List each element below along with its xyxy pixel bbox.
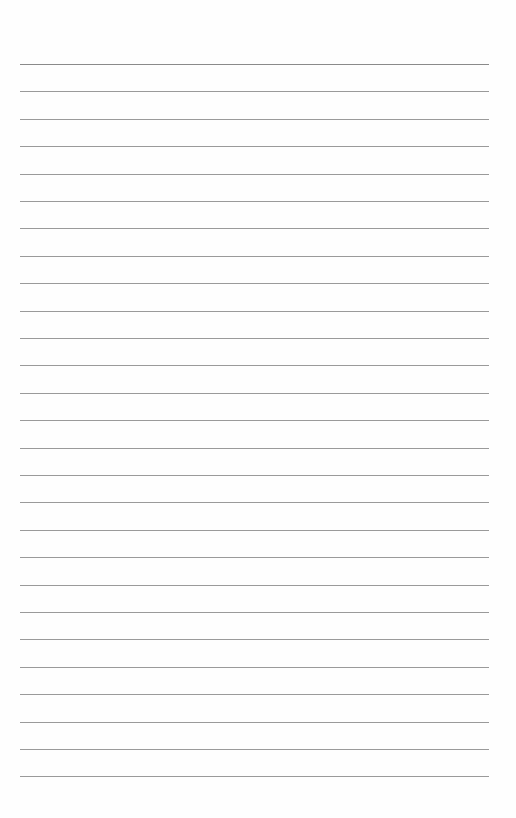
ruled-line <box>20 667 489 668</box>
ruled-line <box>20 201 489 202</box>
ruled-line <box>20 557 489 558</box>
ruled-line <box>20 283 489 284</box>
ruled-line <box>20 174 489 175</box>
ruled-line <box>20 119 489 120</box>
ruled-line <box>20 91 489 92</box>
ruled-line <box>20 694 489 695</box>
ruled-line <box>20 530 489 531</box>
ruled-line <box>20 612 489 613</box>
lined-paper-page <box>0 0 516 818</box>
ruled-line <box>20 146 489 147</box>
ruled-line <box>20 256 489 257</box>
ruled-line <box>20 365 489 366</box>
ruled-line <box>20 722 489 723</box>
ruled-line <box>20 338 489 339</box>
ruled-line <box>20 311 489 312</box>
ruled-line <box>20 585 489 586</box>
ruled-line <box>20 776 489 777</box>
ruled-line <box>20 749 489 750</box>
ruled-line <box>20 475 489 476</box>
ruled-line <box>20 420 489 421</box>
ruled-line <box>20 228 489 229</box>
ruled-line <box>20 64 489 65</box>
ruled-line <box>20 448 489 449</box>
ruled-line <box>20 502 489 503</box>
ruled-line <box>20 393 489 394</box>
ruled-line <box>20 639 489 640</box>
